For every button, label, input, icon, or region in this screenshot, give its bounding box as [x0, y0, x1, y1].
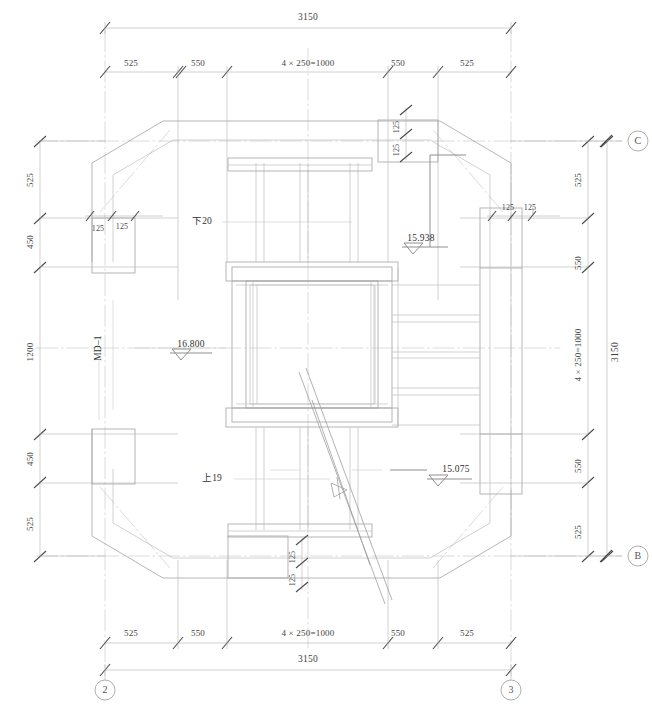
- dim-left-3: 1200: [26, 343, 35, 362]
- dim-top-4: 550: [391, 59, 405, 68]
- dim-left-1: 525: [26, 173, 35, 187]
- grid-bubble-3-label[interactable]: 3: [508, 685, 513, 695]
- octagon-outer-ring: [92, 120, 533, 578]
- elevation-symbols: [170, 155, 472, 486]
- elevation-15075: 15.075: [442, 465, 469, 475]
- dim-top-2: 550: [191, 59, 205, 68]
- dim-right-5: 525: [574, 525, 583, 539]
- dim-corner-tr-a: 125: [502, 204, 515, 212]
- dim-corner-top-b: 125: [393, 121, 401, 134]
- dim-right-2: 550: [574, 256, 583, 270]
- dim-corner-top-a: 125: [393, 144, 401, 157]
- dim-right-3: 4 × 250=1000: [574, 328, 583, 381]
- local-dim-ticks: [85, 105, 560, 592]
- dim-top-3: 4 × 250=1000: [281, 59, 334, 68]
- dim-bottom-1: 525: [124, 629, 138, 638]
- dim-left-2: 450: [26, 235, 35, 249]
- dimension-right: [460, 136, 622, 562]
- dim-corner-tl-a: 125: [92, 225, 105, 233]
- drawing-sheet: .t { fill:none; stroke:#c6c6c6; stroke-w…: [0, 0, 652, 711]
- dim-top-5: 525: [460, 59, 474, 68]
- dim-left-4: 450: [26, 452, 35, 466]
- dim-corner-bot-a: 125: [289, 574, 297, 587]
- grid-centerlines: [36, 30, 622, 676]
- dim-right-4: 550: [574, 459, 583, 473]
- dim-corner-tr-b: 125: [524, 204, 537, 212]
- grid-bubble-c-label[interactable]: C: [635, 136, 642, 146]
- left-chord: [113, 300, 226, 410]
- ribs-top: [228, 158, 372, 262]
- grid-bubble-b-label[interactable]: B: [635, 551, 642, 561]
- dim-bottom-overall: 3150: [298, 655, 318, 665]
- note-leaders: [99, 222, 382, 479]
- note-up-19: 上19: [202, 474, 222, 484]
- grid-bubble-2-label[interactable]: 2: [102, 685, 107, 695]
- dimension-left: [34, 136, 178, 562]
- beam-tag-md1: MD–1: [94, 335, 104, 361]
- central-frame: [226, 262, 398, 427]
- dim-top-overall: 3150: [298, 13, 318, 23]
- dim-left-5: 525: [26, 517, 35, 531]
- ribs-right: [392, 268, 480, 427]
- dim-bottom-3: 4 × 250=1000: [281, 629, 334, 638]
- dim-top-1: 525: [124, 59, 138, 68]
- dim-right-1: 525: [574, 173, 583, 187]
- dim-bottom-4: 550: [391, 629, 405, 638]
- ribs-bottom: [228, 427, 372, 537]
- note-down-20: 下20: [192, 217, 212, 227]
- dim-bottom-2: 550: [191, 629, 205, 638]
- dim-corner-bot-b: 125: [289, 551, 297, 564]
- elevation-15938: 15.938: [407, 234, 434, 244]
- elevation-16800: 16.800: [177, 340, 204, 350]
- dim-corner-tl-b: 125: [116, 223, 129, 231]
- dim-right-overall: 3150: [611, 342, 621, 362]
- dim-bottom-5: 525: [460, 629, 474, 638]
